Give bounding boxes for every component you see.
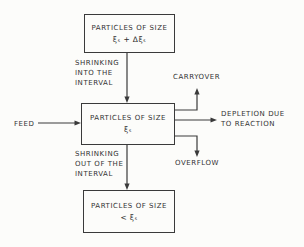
particle-size-flow-diagram: PARTICLES OF SIZE ξₛ + Δξₛ PARTICLES OF … — [0, 0, 304, 247]
depletion-line2: TO REACTION — [221, 119, 285, 129]
upper-box-title: PARTICLES OF SIZE — [92, 24, 168, 32]
lower-box-title: PARTICLES OF SIZE — [91, 202, 167, 210]
lower-box-math: < ξₛ — [120, 213, 137, 222]
shrinking-out-line3: INTERVAL — [75, 169, 123, 179]
particle-box-upper: PARTICLES OF SIZE ξₛ + Δξₛ — [84, 14, 175, 53]
feed-label: FEED — [14, 119, 34, 129]
shrinking-into-line3: INTERVAL — [75, 78, 119, 88]
shrinking-into-label: SHRINKING INTO THE INTERVAL — [75, 58, 119, 88]
shrinking-into-arrow — [124, 53, 129, 103]
carryover-arrow — [175, 88, 200, 110]
shrinking-out-label: SHRINKING OUT OF THE INTERVAL — [75, 149, 123, 179]
middle-box-title: PARTICLES OF SIZE — [90, 114, 166, 122]
depletion-line1: DEPLETION DUE — [221, 109, 285, 119]
shrinking-into-line1: SHRINKING — [75, 58, 119, 68]
shrinking-out-arrow — [124, 145, 129, 190]
depletion-arrow — [175, 117, 217, 122]
overflow-arrow — [175, 136, 200, 157]
shrinking-out-line2: OUT OF THE — [75, 159, 123, 169]
overflow-label: OVERFLOW — [175, 158, 219, 168]
particle-box-middle: PARTICLES OF SIZE ξₛ — [81, 103, 175, 145]
shrinking-into-line2: INTO THE — [75, 68, 119, 78]
shrinking-out-line1: SHRINKING — [75, 149, 123, 159]
carryover-label: CARRYOVER — [173, 72, 220, 82]
depletion-label: DEPLETION DUE TO REACTION — [221, 109, 285, 129]
particle-box-lower: PARTICLES OF SIZE < ξₛ — [83, 190, 175, 233]
middle-box-math: ξₛ — [124, 125, 132, 134]
feed-arrow — [38, 120, 81, 125]
upper-box-math: ξₛ + Δξₛ — [113, 35, 146, 44]
